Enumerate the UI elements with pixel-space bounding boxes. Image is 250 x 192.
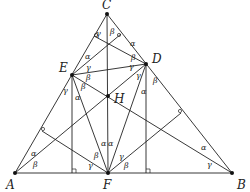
angle-label: α bbox=[85, 52, 91, 61]
point-c bbox=[105, 12, 109, 16]
angle-label: β bbox=[130, 53, 136, 62]
vertex-label-h: H bbox=[113, 92, 125, 106]
angle-label: γ bbox=[129, 62, 134, 71]
altitude-cf bbox=[107, 14, 108, 173]
side-ac bbox=[15, 14, 107, 173]
right-angle-mark bbox=[72, 169, 76, 173]
angle-label: γ bbox=[207, 160, 212, 169]
right-angle-mark bbox=[178, 109, 181, 112]
point-e bbox=[70, 73, 74, 77]
angle-label: α bbox=[75, 93, 81, 102]
angle-label: α bbox=[101, 139, 107, 148]
angle-label: α bbox=[141, 87, 147, 96]
point-b bbox=[230, 171, 234, 175]
angle-label: β bbox=[109, 27, 115, 36]
point-d bbox=[144, 62, 148, 66]
side-bc bbox=[107, 14, 232, 173]
angle-label: β bbox=[80, 82, 86, 91]
perp-f-to-bc bbox=[108, 113, 181, 173]
angle-label: β bbox=[32, 160, 38, 169]
side-ef bbox=[72, 75, 108, 173]
angle-label: β bbox=[93, 151, 99, 160]
angle-label: α bbox=[201, 143, 207, 152]
angle-label: β bbox=[123, 161, 129, 170]
right-angle-mark bbox=[41, 127, 44, 130]
orthic-triangle-diagram: ABCDEFH γβααγββγβγγβαααβαγααβγγβ bbox=[0, 0, 250, 192]
angle-label: γ bbox=[136, 71, 141, 80]
vertex-label-b: B bbox=[236, 178, 246, 192]
point-a bbox=[13, 171, 17, 175]
angle-label: α bbox=[108, 139, 114, 148]
vertex-label-d: D bbox=[151, 52, 162, 66]
angle-label: β bbox=[85, 73, 91, 82]
vertex-label-c: C bbox=[102, 0, 111, 12]
vertex-label-e: E bbox=[58, 61, 68, 75]
vertex-label-f: F bbox=[102, 178, 112, 192]
right-angle-mark bbox=[146, 169, 150, 173]
angle-label: γ bbox=[63, 86, 68, 95]
angle-label: β bbox=[152, 76, 158, 85]
point-f bbox=[106, 171, 110, 175]
angle-label: γ bbox=[96, 29, 101, 38]
angle-label: γ bbox=[119, 152, 124, 161]
vertex-label-a: A bbox=[5, 178, 15, 192]
angle-label: α bbox=[130, 39, 136, 48]
angle-label: γ bbox=[86, 63, 91, 72]
angle-label: α bbox=[31, 149, 37, 158]
point-h bbox=[106, 94, 110, 98]
angle-label: γ bbox=[88, 161, 93, 170]
